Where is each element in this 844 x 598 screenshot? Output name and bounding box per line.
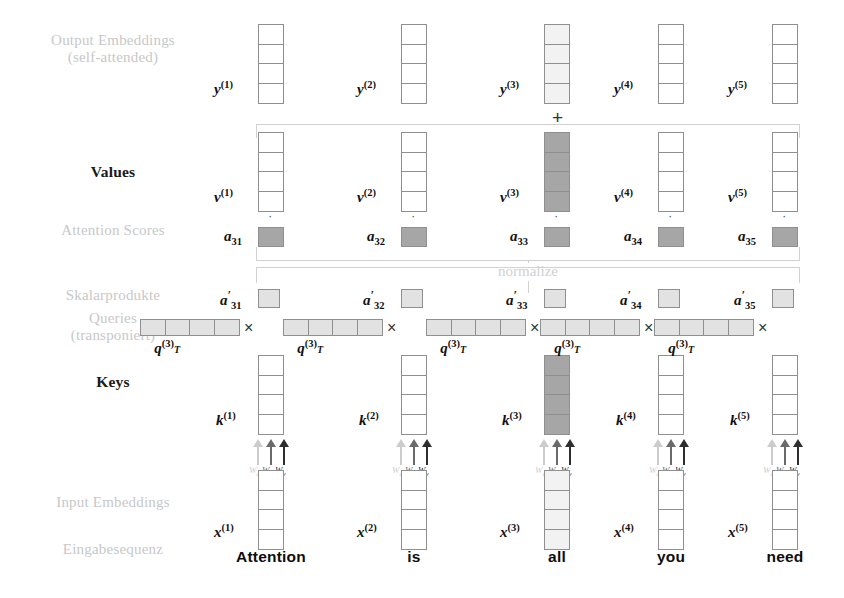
vector-cell (258, 414, 284, 435)
times-operator-4: × (644, 320, 653, 336)
times-operator-2: × (387, 320, 396, 336)
vector-cell (772, 490, 798, 511)
vector-cell (658, 414, 684, 435)
vector-cell (258, 394, 284, 415)
attention-score-label-2: a32 (367, 228, 385, 247)
vector-cell (258, 63, 284, 84)
vector-cell (540, 319, 566, 336)
vector-cell (658, 375, 684, 396)
key-vector-1 (258, 355, 284, 435)
attention-score-box-5 (772, 227, 798, 247)
value-label-2: v(2) (357, 187, 376, 206)
row-label-line1: Keys (8, 373, 218, 390)
arrow-shaft (657, 447, 659, 465)
vector-cell (332, 319, 358, 336)
key-label-5: k(5) (730, 410, 750, 429)
vector-cell (258, 83, 284, 104)
arrow-head (253, 439, 263, 447)
key-vector-3 (544, 355, 570, 435)
arrow-shaft (283, 447, 285, 465)
attention-score-label-1: a31 (224, 228, 242, 247)
wv-arrow-3 (565, 439, 575, 465)
query-vector-transposed-5 (654, 319, 754, 336)
vector-cell (772, 152, 798, 173)
vector-cell (401, 63, 427, 84)
vector-cell (658, 490, 684, 511)
arrow-head (666, 439, 676, 447)
arrow-shaft (543, 447, 545, 465)
vector-cell (544, 44, 570, 65)
vector-cell (658, 529, 684, 550)
row-label-line1: Values (8, 163, 218, 180)
times-operator-3: × (530, 320, 539, 336)
value-vector-5 (772, 132, 798, 212)
vector-cell (401, 394, 427, 415)
vector-cell (401, 83, 427, 104)
key-label-2: k(2) (359, 410, 379, 429)
arrow-shaft (569, 447, 571, 465)
times-operator-5: × (758, 320, 767, 336)
vector-cell (658, 509, 684, 530)
vector-cell (401, 375, 427, 396)
vector-cell (772, 355, 798, 376)
arrow-shaft (683, 447, 685, 465)
vector-cell (658, 63, 684, 84)
vector-cell (401, 529, 427, 550)
vector-cell (258, 470, 284, 491)
dot-operator-5: · (782, 209, 786, 222)
query-label-1: q(3)T (154, 338, 180, 357)
row-label-skalarprodukte: Skalarprodukte (8, 287, 218, 304)
vector-cell (772, 44, 798, 65)
input-token-1: Attention (196, 548, 346, 566)
vector-cell (401, 414, 427, 435)
arrow-head (396, 439, 406, 447)
wv-arrow-1 (279, 439, 289, 465)
arrow-shaft (784, 447, 786, 465)
arrow-head (539, 439, 549, 447)
attention-score-box-4 (658, 227, 684, 247)
vector-cell (544, 63, 570, 84)
arrow-shaft (426, 447, 428, 465)
attention-score-label-3: a33 (510, 228, 528, 247)
vector-cell (401, 24, 427, 45)
output-embedding-label-4: y(4) (614, 79, 633, 98)
input-token-5: need (710, 548, 844, 566)
key-label-1: k(1) (216, 410, 236, 429)
wq-arrow-4 (653, 439, 663, 465)
output-embedding-label-5: y(5) (728, 79, 747, 98)
vector-cell (614, 319, 640, 336)
key-vector-2 (401, 355, 427, 435)
vector-cell (658, 355, 684, 376)
wq-arrow-5 (767, 439, 777, 465)
vector-cell (772, 394, 798, 415)
row-label-values: Values (8, 163, 218, 180)
input-embedding-label-2: x(2) (357, 522, 377, 541)
row-label-line2: (self-attended) (8, 49, 218, 66)
vector-cell (140, 319, 166, 336)
vector-cell (258, 44, 284, 65)
output-embedding-vector-3 (544, 24, 570, 104)
vector-cell (214, 319, 240, 336)
output-embedding-label-3: y(3) (500, 79, 519, 98)
vector-cell (544, 470, 570, 491)
vector-cell (589, 319, 615, 336)
vector-cell (357, 319, 383, 336)
arrow-shaft (771, 447, 773, 465)
row-label-line1: Attention Scores (8, 222, 218, 239)
input-embedding-vector-4 (658, 470, 684, 550)
arrow-head (679, 439, 689, 447)
input-embedding-vector-1 (258, 470, 284, 550)
normalized-score-label-3: a′33 (506, 288, 527, 311)
vector-cell (189, 319, 215, 336)
vector-cell (401, 490, 427, 511)
vector-cell (772, 171, 798, 192)
vector-cell (401, 171, 427, 192)
normalized-score-box-1 (258, 289, 280, 308)
input-embedding-label-3: x(3) (500, 522, 520, 541)
vector-cell (544, 375, 570, 396)
row-label-attention-scores: Attention Scores (8, 222, 218, 239)
attention-score-box-2 (401, 227, 427, 247)
arrow-shaft (400, 447, 402, 465)
input-embedding-vector-2 (401, 470, 427, 550)
vector-cell (654, 319, 680, 336)
